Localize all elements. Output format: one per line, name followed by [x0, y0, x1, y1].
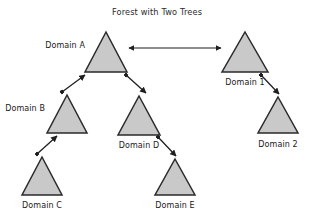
node-domain-e[interactable]: Domain E: [155, 159, 195, 210]
forest-diagram: Forest with Two Trees Domain A Domain B …: [0, 0, 315, 221]
node-domain-c[interactable]: Domain C: [22, 157, 62, 210]
node-domain-d[interactable]: Domain D: [118, 96, 160, 150]
forest-diagram-canvas: Forest with Two Trees Domain A Domain B …: [0, 0, 315, 221]
edge-domain-a-to-domain-d: [126, 75, 146, 93]
triangle-icon: [258, 97, 298, 133]
node-domain-b[interactable]: Domain B: [5, 95, 87, 133]
node-domain-2[interactable]: Domain 2: [258, 97, 298, 149]
node-label-domain-d: Domain D: [119, 141, 160, 150]
node-label-domain-2: Domain 2: [258, 140, 297, 149]
triangle-icon: [22, 157, 62, 195]
node-label-domain-a: Domain A: [45, 41, 85, 50]
triangle-icon: [85, 32, 127, 72]
node-domain-1[interactable]: Domain 1: [222, 32, 268, 87]
triangle-icon: [155, 159, 195, 195]
node-label-domain-e: Domain E: [155, 201, 194, 210]
node-domain-a[interactable]: Domain A: [45, 32, 127, 72]
edge-domain-d-to-domain-e: [158, 137, 176, 156]
triangle-icon: [222, 32, 268, 72]
node-label-domain-c: Domain C: [22, 201, 62, 210]
node-label-domain-b: Domain B: [5, 104, 45, 113]
edge-domain-c-to-domain-b: [37, 136, 57, 154]
triangle-icon: [47, 95, 87, 133]
edge-domain-b-to-domain-a: [62, 75, 85, 92]
node-group: Domain A Domain B Domain D Domain C Doma…: [5, 32, 298, 210]
node-label-domain-1: Domain 1: [225, 78, 264, 87]
diagram-title: Forest with Two Trees: [112, 7, 202, 17]
triangle-icon: [118, 96, 160, 135]
